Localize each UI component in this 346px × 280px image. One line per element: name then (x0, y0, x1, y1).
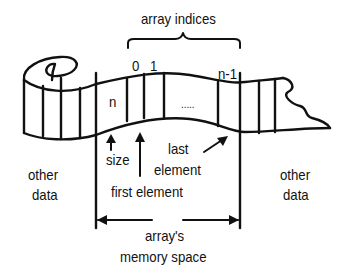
size-cell-label: n (109, 94, 116, 110)
right-other-data-line2: data (283, 187, 309, 203)
memory-space-label-line2: memory space (120, 249, 207, 265)
array-indices-label: array indices (141, 11, 216, 27)
memory-space-left-arrowhead-icon (97, 215, 107, 225)
index-label-0: 0 (132, 58, 139, 74)
tape-body (96, 73, 330, 135)
last-element-annotation-line1: last (168, 141, 189, 157)
scroll-roll-left (24, 57, 96, 139)
memory-space-label-line1: array's (145, 228, 184, 244)
last-element-arrow (204, 140, 222, 152)
first-element-annotation: first element (111, 184, 183, 200)
indices-brace (128, 33, 240, 48)
last-element-annotation-line2: element (154, 162, 201, 178)
left-other-data-line2: data (32, 187, 58, 203)
ellipsis-label: ..... (181, 96, 194, 112)
memory-space-right-arrowhead-icon (229, 215, 239, 225)
size-arrowhead-icon (106, 134, 116, 143)
left-other-data-line1: other (28, 167, 58, 183)
last-element-arrowhead-icon (217, 136, 228, 146)
index-label-n-minus-1: n-1 (218, 66, 237, 82)
right-other-data-line1: other (280, 167, 310, 183)
index-label-1: 1 (150, 58, 157, 74)
size-annotation: size (106, 152, 129, 168)
first-element-arrowhead-icon (135, 132, 145, 142)
